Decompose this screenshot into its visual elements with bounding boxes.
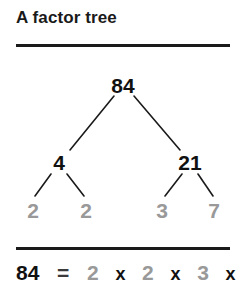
edge-4-to-2b <box>67 174 84 196</box>
edge-84-to-4 <box>70 96 114 150</box>
tree-leaf-2: 2 <box>80 200 92 221</box>
edge-84-to-21 <box>134 96 180 150</box>
equation-factor-2: 2 <box>142 261 154 284</box>
tree-node-right-branch: 21 <box>178 152 201 173</box>
edge-21-to-7 <box>198 174 213 196</box>
equation-equals-sign: = <box>55 261 71 284</box>
equation-factor-3: 3 <box>197 261 209 284</box>
edge-21-to-3 <box>165 174 182 196</box>
divider-bottom <box>16 247 230 250</box>
tree-leaf-3: 3 <box>156 200 168 221</box>
factorization-equation: 84 = 2 x 2 x 3 x 7 <box>16 262 230 283</box>
equation-factor-1: 2 <box>87 261 99 284</box>
tree-node-root: 84 <box>111 75 134 96</box>
equation-times-sign-1: x <box>114 264 126 284</box>
divider-top <box>16 44 230 47</box>
tree-leaf-4: 7 <box>208 200 220 221</box>
equation-times-sign-2: x <box>169 264 181 284</box>
tree-leaf-1: 2 <box>27 200 39 221</box>
edge-4-to-2a <box>35 174 51 196</box>
equation-product: 84 <box>16 261 39 284</box>
factor-tree-diagram: 84 4 21 2 2 3 7 <box>0 56 246 236</box>
tree-node-left-branch: 4 <box>53 152 65 173</box>
equation-times-sign-3: x <box>225 264 237 284</box>
page-title: A factor tree <box>16 8 117 28</box>
